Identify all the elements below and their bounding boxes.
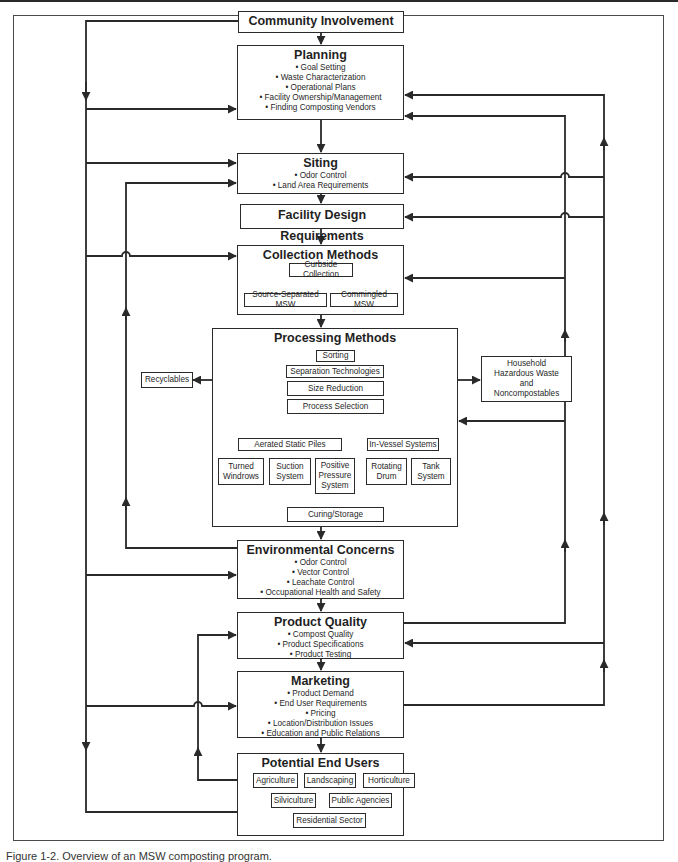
environmental-item: • Vector Control — [238, 568, 403, 578]
positive-pressure-box: Positive Pressure System — [315, 458, 355, 494]
public-agencies-box: Public Agencies — [329, 793, 392, 808]
suction-system-box: Suction System — [269, 458, 311, 485]
planning-item: • Facility Ownership/Management — [238, 93, 403, 103]
figure-caption: Figure 1-2. Overview of an MSW compostin… — [6, 850, 272, 862]
size-reduction-box: Size Reduction — [287, 381, 384, 396]
planning-box: Planning • Goal Setting • Waste Characte… — [237, 45, 404, 120]
product-quality-box: Product Quality • Compost Quality • Prod… — [237, 612, 404, 659]
planning-title: Planning — [238, 48, 403, 63]
marketing-item: • Education and Public Relations — [238, 729, 403, 739]
marketing-item: • End User Requirements — [238, 699, 403, 709]
curbside-collection-box: Curbside Collection — [289, 263, 353, 277]
residential-sector-box: Residential Sector — [293, 813, 366, 828]
aerated-static-piles-box: Aerated Static Piles — [238, 438, 342, 451]
silviculture-box: Silviculture — [271, 793, 316, 808]
tank-system-box: Tank System — [411, 458, 451, 485]
environmental-concerns-title: Environmental Concerns — [238, 543, 403, 558]
planning-item: • Operational Plans — [238, 83, 403, 93]
siting-box: Siting • Odor Control • Land Area Requir… — [237, 153, 404, 194]
community-involvement-title: Community Involvement — [239, 12, 403, 31]
product-quality-item: • Product Testing — [238, 650, 403, 660]
household-line: Noncompostables — [494, 389, 560, 399]
recyclables-box: Recyclables — [141, 372, 193, 388]
marketing-item: • Location/Distribution Issues — [238, 719, 403, 729]
community-involvement-box: Community Involvement — [238, 11, 404, 33]
environmental-item: • Odor Control — [238, 558, 403, 568]
marketing-item: • Product Demand — [238, 689, 403, 699]
planning-item: • Waste Characterization — [238, 73, 403, 83]
horticulture-box: Horticulture — [363, 773, 415, 788]
sorting-box: Sorting — [316, 350, 355, 362]
source-separated-box: Source-Separated MSW — [244, 293, 327, 307]
household-line: and — [520, 379, 534, 389]
separation-technologies-box: Separation Technologies — [286, 365, 384, 378]
siting-item: • Land Area Requirements — [238, 181, 403, 191]
planning-item: • Finding Composting Vendors — [238, 103, 403, 113]
landscaping-box: Landscaping — [304, 773, 356, 788]
environmental-item: • Occupational Health and Safety — [238, 588, 403, 598]
household-line: Hazardous Waste — [494, 369, 559, 379]
product-quality-title: Product Quality — [238, 615, 403, 630]
environmental-item: • Leachate Control — [238, 578, 403, 588]
marketing-item: • Pricing — [238, 709, 403, 719]
facility-design-title: Facility Design Requirements — [241, 205, 403, 247]
product-quality-item: • Product Specifications — [238, 640, 403, 650]
agriculture-box: Agriculture — [253, 773, 298, 788]
turned-windrows-box: Turned Windrows — [218, 458, 264, 485]
curing-storage-box: Curing/Storage — [287, 507, 384, 522]
environmental-concerns-box: Environmental Concerns • Odor Control • … — [237, 540, 404, 599]
commingled-box: Commingled MSW — [330, 293, 398, 307]
siting-title: Siting — [238, 156, 403, 171]
marketing-title: Marketing — [238, 674, 403, 689]
marketing-box: Marketing • Product Demand • End User Re… — [237, 671, 404, 738]
household-line: Household — [507, 359, 546, 369]
processing-methods-title: Processing Methods — [213, 331, 457, 346]
process-selection-box: Process Selection — [287, 399, 384, 414]
planning-item: • Goal Setting — [238, 63, 403, 73]
in-vessel-systems-box: In-Vessel Systems — [367, 438, 439, 451]
household-hazardous-box: Household Hazardous Waste and Noncompost… — [481, 356, 572, 402]
rotating-drum-box: Rotating Drum — [366, 458, 407, 485]
product-quality-item: • Compost Quality — [238, 630, 403, 640]
end-users-title: Potential End Users — [238, 756, 403, 771]
facility-design-box: Facility Design Requirements — [240, 204, 404, 229]
siting-item: • Odor Control — [238, 171, 403, 181]
